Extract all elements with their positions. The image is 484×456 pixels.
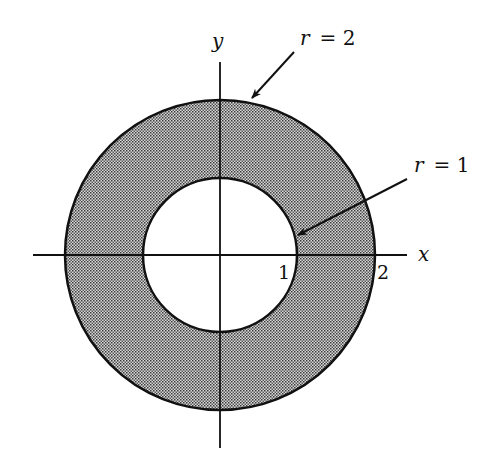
outer-radius-annotation: r = 2	[252, 26, 355, 98]
y-axis-label: y	[211, 29, 224, 53]
inner-radius-label: r = 1	[414, 153, 469, 177]
x-axis-label: x	[418, 242, 429, 266]
tick-label-2: 2	[377, 261, 389, 283]
inner-radius-eq: = 1	[434, 153, 470, 177]
inner-radius-var: r	[414, 153, 425, 177]
annulus-diagram: y x 1 2 r = 2 r = 1	[0, 0, 484, 456]
outer-radius-arrow	[252, 52, 294, 98]
outer-radius-var: r	[300, 26, 311, 50]
outer-radius-eq: = 2	[320, 26, 356, 50]
tick-label-1: 1	[278, 261, 290, 283]
outer-radius-label: r = 2	[300, 26, 355, 50]
